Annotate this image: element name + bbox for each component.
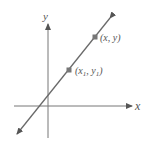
label-part: )	[98, 65, 103, 77]
point-x1-y1	[67, 68, 72, 73]
point-x1-y1-label: (x1, y1)	[75, 65, 103, 78]
point-x-y	[93, 35, 98, 40]
y-axis-label: y	[42, 10, 48, 22]
point-x-y-label: (x, y)	[100, 32, 121, 44]
point-slope-diagram: x y (x, y) (x1, y1)	[0, 0, 144, 149]
x-axis-label: x	[134, 99, 141, 113]
